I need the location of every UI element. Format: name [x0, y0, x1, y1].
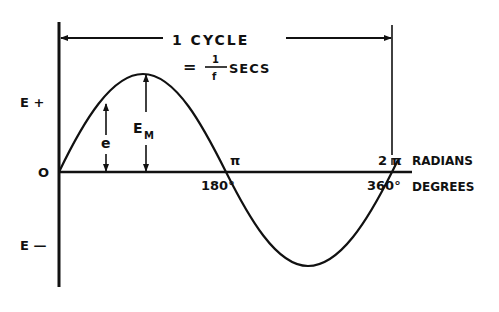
two-pi-label: 2 π: [378, 153, 402, 168]
y-label-positive: E +: [20, 95, 44, 110]
period-eq: =: [183, 57, 196, 76]
degrees-label: DEGREES: [412, 180, 474, 194]
sine-curve: [59, 74, 398, 266]
deg360-label: 360°: [367, 178, 401, 193]
pi-label: π: [230, 153, 240, 168]
radians-label: RADIANS: [412, 154, 473, 168]
sine-wave-diagram: 1 CYCLE = 1 f SECS E + O E — E M e π 180…: [0, 0, 499, 312]
cycle-label: 1 CYCLE: [172, 32, 249, 48]
period-unit: SECS: [229, 61, 270, 76]
y-label-zero: O: [38, 165, 49, 180]
peak-sub: M: [144, 130, 154, 141]
peak-label: E: [133, 120, 143, 136]
inst-label: e: [101, 135, 111, 151]
period-num: 1: [212, 54, 219, 65]
deg180-label: 180°: [201, 178, 235, 193]
y-label-negative: E —: [20, 238, 46, 253]
period-den: f: [212, 71, 217, 82]
